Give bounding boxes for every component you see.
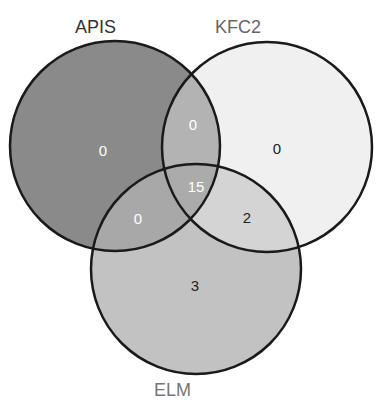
count-apis-kfc2: 0 bbox=[189, 116, 197, 133]
count-elm-only: 3 bbox=[191, 277, 199, 294]
set-label-elm: ELM bbox=[154, 380, 191, 400]
count-all-three: 15 bbox=[188, 178, 205, 195]
set-label-kfc2: KFC2 bbox=[215, 17, 261, 37]
count-apis-only: 0 bbox=[99, 142, 107, 159]
set-label-apis: APIS bbox=[75, 17, 116, 37]
count-apis-elm: 0 bbox=[134, 210, 142, 227]
venn-diagram: APIS KFC2 ELM 0 0 0 15 0 2 3 bbox=[0, 0, 391, 412]
count-kfc2-only: 0 bbox=[273, 140, 281, 157]
count-kfc2-elm: 2 bbox=[243, 209, 251, 226]
